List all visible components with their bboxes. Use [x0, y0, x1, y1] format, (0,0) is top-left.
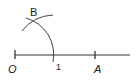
label-unit: 1	[56, 62, 61, 72]
label-b: B	[30, 6, 37, 18]
label-a: A	[93, 63, 101, 75]
label-origin: O	[8, 63, 17, 75]
construction-diagram: B O 1 A	[0, 0, 138, 83]
